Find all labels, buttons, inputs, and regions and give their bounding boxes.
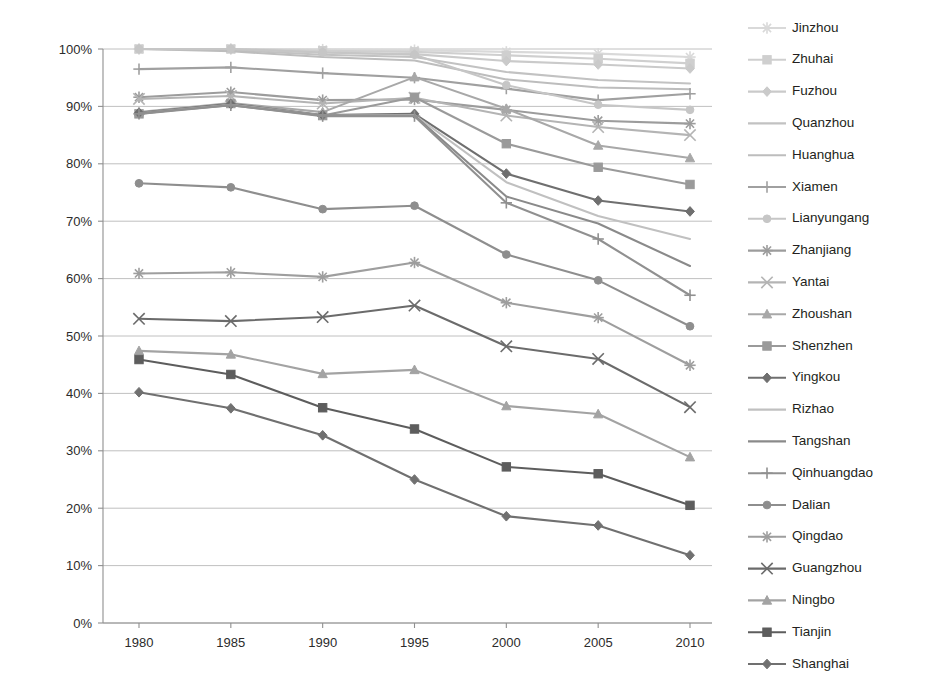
data-point-marker-x xyxy=(684,402,695,413)
data-point-marker-diamond xyxy=(686,550,695,560)
data-point-marker-circle xyxy=(763,501,771,509)
data-point-marker-square xyxy=(410,425,418,433)
legend-label: Zhuhai xyxy=(792,51,833,66)
data-point-marker-circle xyxy=(227,183,235,191)
y-axis-tick-label: 20% xyxy=(66,501,92,516)
legend-swatch xyxy=(748,501,786,509)
legend-swatch xyxy=(748,596,786,605)
legend-item-shanghai[interactable]: Shanghai xyxy=(748,656,849,671)
legend-label: Ningbo xyxy=(792,592,835,607)
data-point-marker-square xyxy=(686,180,694,188)
legend-swatch xyxy=(748,342,786,350)
series-guangzhou xyxy=(133,300,695,413)
y-axis-tick-labels: 0%10%20%30%40%50%60%70%80%90%100% xyxy=(59,42,93,631)
legend-item-rizhao[interactable]: Rizhao xyxy=(748,401,834,416)
legend-label: Yantai xyxy=(792,274,829,289)
data-point-marker-square xyxy=(318,404,326,412)
legend-item-tianjin[interactable]: Tianjin xyxy=(748,624,831,639)
legend-item-zhanjiang[interactable]: Zhanjiang xyxy=(748,242,851,257)
legend-item-huanghua[interactable]: Huanghua xyxy=(748,147,855,162)
legend-label: Rizhao xyxy=(792,401,834,416)
legend-item-qinhuangdao[interactable]: Qinhuangdao xyxy=(748,465,873,480)
data-point-marker-circle xyxy=(411,51,419,59)
data-point-marker-circle xyxy=(502,81,510,89)
data-point-marker-asterisk xyxy=(133,268,144,279)
data-point-marker-circle xyxy=(135,179,143,187)
y-axis-tick-label: 80% xyxy=(66,156,92,171)
y-axis-tick-label: 60% xyxy=(66,271,92,286)
legend-label: Qinhuangdao xyxy=(792,465,873,480)
data-point-marker-square xyxy=(135,355,143,363)
x-axis-tick-label: 2000 xyxy=(492,635,521,650)
data-point-marker-diamond xyxy=(226,403,235,413)
legend-label: Lianyungang xyxy=(792,210,869,225)
data-point-marker-asterisk xyxy=(317,271,328,282)
gridlines-group xyxy=(103,49,712,623)
data-point-marker-diamond xyxy=(763,373,772,383)
data-point-marker-diamond xyxy=(318,430,327,440)
series-qinhuangdao xyxy=(133,100,695,301)
legend-item-fuzhou[interactable]: Fuzhou xyxy=(748,83,837,98)
data-point-marker-diamond xyxy=(410,475,419,485)
chart-canvas: 0%10%20%30%40%50%60%70%80%90%100% 198019… xyxy=(0,0,928,680)
line-chart: 0%10%20%30%40%50%60%70%80%90%100% 198019… xyxy=(0,0,928,680)
legend-label: Xiamen xyxy=(792,179,838,194)
legend-item-dalian[interactable]: Dalian xyxy=(748,497,830,512)
data-point-marker-square xyxy=(686,501,694,509)
legend-item-qingdao[interactable]: Qingdao xyxy=(748,528,843,543)
series-line xyxy=(139,105,690,266)
data-point-marker-asterisk xyxy=(592,115,603,126)
legend-item-zhoushan[interactable]: Zhoushan xyxy=(748,306,852,321)
x-axis-tick-label: 1980 xyxy=(125,635,154,650)
data-point-marker-circle xyxy=(686,322,694,330)
series-line xyxy=(139,306,690,408)
legend-label: Guangzhou xyxy=(792,560,862,575)
legend-item-shenzhen[interactable]: Shenzhen xyxy=(748,338,853,353)
y-axis-tick-label: 90% xyxy=(66,99,92,114)
series-rizhao xyxy=(139,105,690,239)
legend-item-yantai[interactable]: Yantai xyxy=(748,274,829,289)
data-point-marker-diamond xyxy=(763,659,772,669)
series-line xyxy=(139,105,690,239)
data-point-marker-asterisk xyxy=(592,312,603,323)
legend-label: Shenzhen xyxy=(792,338,853,353)
series-ningbo xyxy=(134,346,694,461)
data-point-marker-circle xyxy=(594,101,602,109)
legend-swatch xyxy=(748,277,786,288)
legend-item-lianyungang[interactable]: Lianyungang xyxy=(748,210,869,225)
y-axis-tick-label: 50% xyxy=(66,329,92,344)
data-point-marker-circle xyxy=(227,45,235,53)
legend-item-jinzhou[interactable]: Jinzhou xyxy=(748,20,839,35)
data-point-marker-square xyxy=(763,56,771,64)
legend-item-tangshan[interactable]: Tangshan xyxy=(748,433,851,448)
data-point-marker-asterisk xyxy=(133,92,144,103)
legend-label: Qingdao xyxy=(792,528,843,543)
legend-item-yingkou[interactable]: Yingkou xyxy=(748,369,840,384)
legend-item-quanzhou[interactable]: Quanzhou xyxy=(748,115,854,130)
data-point-marker-circle xyxy=(319,205,327,213)
y-axis-tick-label: 40% xyxy=(66,386,92,401)
data-point-marker-plus xyxy=(225,62,236,73)
legend-swatch xyxy=(748,309,786,318)
x-axis-tick-labels: 1980198519901995200020052010 xyxy=(125,635,705,650)
legend-item-zhuhai[interactable]: Zhuhai xyxy=(748,51,833,66)
data-series-group xyxy=(133,43,695,560)
legend-label: Yingkou xyxy=(792,369,840,384)
data-point-marker-square xyxy=(410,93,418,101)
data-point-marker-plus xyxy=(684,290,695,301)
data-point-marker-asterisk xyxy=(225,267,236,278)
legend-item-guangzhou[interactable]: Guangzhou xyxy=(748,560,862,575)
legend-swatch xyxy=(748,659,786,669)
legend-swatch xyxy=(748,22,786,33)
series-shanghai xyxy=(135,387,695,560)
legend-label: Quanzhou xyxy=(792,115,854,130)
legend-label: Tianjin xyxy=(792,624,831,639)
legend-swatch xyxy=(748,181,786,192)
legend-item-xiamen[interactable]: Xiamen xyxy=(748,179,838,194)
data-point-marker-diamond xyxy=(686,207,695,217)
data-point-marker-asterisk xyxy=(409,257,420,268)
x-axis-tick-label: 2010 xyxy=(676,635,705,650)
legend: JinzhouZhuhaiFuzhouQuanzhouHuanghuaXiame… xyxy=(748,20,873,671)
axes-group xyxy=(98,49,712,628)
legend-item-ningbo[interactable]: Ningbo xyxy=(748,592,835,607)
